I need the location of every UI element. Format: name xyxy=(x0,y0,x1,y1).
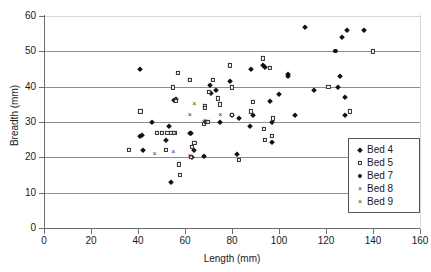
legend-item-bed-7[interactable]: Bed 7 xyxy=(353,169,416,182)
data-point xyxy=(138,109,142,113)
data-point xyxy=(164,148,168,152)
data-point xyxy=(171,85,175,89)
data-point xyxy=(248,66,253,71)
gridline-y-60 xyxy=(44,16,420,17)
data-point xyxy=(371,49,375,53)
x-tick-label: 140 xyxy=(358,236,388,246)
data-point: × xyxy=(173,130,179,136)
data-point xyxy=(268,66,272,70)
data-point xyxy=(211,78,215,82)
data-point xyxy=(338,74,343,79)
data-point xyxy=(237,158,241,162)
data-point xyxy=(227,79,232,84)
data-point xyxy=(140,148,145,153)
x-tick-160 xyxy=(420,229,421,234)
x-axis-title: Length (mm) xyxy=(44,253,420,264)
chart-legend: Bed 4Bed 5Bed 7×Bed 8×Bed 9 xyxy=(348,138,420,213)
data-point xyxy=(230,113,234,117)
data-point xyxy=(188,78,192,82)
y-axis-line xyxy=(44,15,45,229)
x-tick-label: 20 xyxy=(76,236,106,246)
x-tick-label: 120 xyxy=(311,236,341,246)
y-tick-label: 0 xyxy=(8,223,36,233)
legend-item-label: Bed 7 xyxy=(367,169,393,182)
x-tick-label: 80 xyxy=(217,236,247,246)
data-point xyxy=(177,162,181,166)
data-point xyxy=(166,123,171,128)
legend-marker-icon xyxy=(353,169,367,182)
data-point xyxy=(263,138,267,142)
data-point xyxy=(206,90,210,94)
legend-item-bed-4[interactable]: Bed 4 xyxy=(353,143,416,156)
data-point: × xyxy=(170,149,176,155)
x-tick-60 xyxy=(185,229,186,234)
y-tick-20 xyxy=(39,157,44,158)
data-point xyxy=(203,106,207,110)
data-point xyxy=(251,99,255,103)
data-point xyxy=(192,141,196,145)
data-point xyxy=(271,116,275,120)
y-tick-label: 60 xyxy=(8,11,36,21)
data-point xyxy=(342,95,347,100)
legend-marker-icon: × xyxy=(353,195,367,208)
y-tick-40 xyxy=(39,87,44,88)
legend-item-label: Bed 8 xyxy=(367,182,393,195)
gridline-y-50 xyxy=(44,51,420,52)
x-tick-80 xyxy=(232,229,233,234)
data-point xyxy=(174,99,178,103)
legend-item-label: Bed 4 xyxy=(367,143,393,156)
data-point xyxy=(249,109,253,113)
data-point: × xyxy=(151,151,157,157)
legend-item-label: Bed 9 xyxy=(367,195,393,208)
y-tick-30 xyxy=(39,122,44,123)
data-point xyxy=(188,130,193,135)
x-tick-40 xyxy=(138,229,139,234)
data-point xyxy=(176,70,180,74)
data-point xyxy=(326,85,330,89)
y-tick-60 xyxy=(39,16,44,17)
legend-item-bed-8[interactable]: ×Bed 8 xyxy=(353,182,416,195)
data-point xyxy=(260,56,264,60)
data-point xyxy=(276,91,281,96)
data-point xyxy=(216,96,220,100)
data-point: × xyxy=(203,120,209,126)
data-point xyxy=(213,88,218,93)
data-point xyxy=(178,173,182,177)
data-point xyxy=(361,28,366,33)
x-tick-label: 40 xyxy=(123,236,153,246)
data-point xyxy=(302,24,307,29)
y-tick-label: 10 xyxy=(8,188,36,198)
data-point xyxy=(340,35,345,40)
data-point: × xyxy=(217,112,223,118)
y-tick-10 xyxy=(39,193,44,194)
x-tick-20 xyxy=(91,229,92,234)
x-tick-100 xyxy=(279,229,280,234)
data-point xyxy=(234,151,239,156)
legend-item-bed-5[interactable]: Bed 5 xyxy=(353,156,416,169)
data-point xyxy=(267,98,272,103)
x-tick-label: 60 xyxy=(170,236,200,246)
data-point xyxy=(270,134,274,138)
data-point xyxy=(345,28,350,33)
x-tick-0 xyxy=(44,229,45,234)
legend-item-bed-9[interactable]: ×Bed 9 xyxy=(353,195,416,208)
data-point xyxy=(218,119,223,124)
data-point xyxy=(247,123,252,128)
data-point xyxy=(159,131,163,135)
y-tick-50 xyxy=(39,51,44,52)
data-point xyxy=(335,84,340,89)
x-tick-120 xyxy=(326,229,327,234)
data-point xyxy=(138,66,143,71)
data-point xyxy=(164,137,169,142)
data-point xyxy=(218,102,222,106)
data-point xyxy=(230,85,234,89)
gridline-y-30 xyxy=(44,122,420,123)
data-point xyxy=(347,109,351,113)
legend-item-label: Bed 5 xyxy=(367,156,393,169)
data-point xyxy=(262,127,266,131)
data-point xyxy=(312,88,317,93)
y-axis-title: Breadth (mm) xyxy=(9,56,20,176)
data-point xyxy=(155,131,159,135)
plot-right-border xyxy=(420,15,421,229)
x-tick-label: 0 xyxy=(29,236,59,246)
